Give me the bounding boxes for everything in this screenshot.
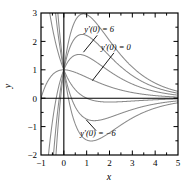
y-tick-label: 2 xyxy=(33,37,38,47)
annotation-middle: y'(0) = 0 xyxy=(100,42,131,52)
y-tick-label: 3 xyxy=(33,8,38,18)
x-tick-label: 0 xyxy=(62,158,67,168)
solution-curves-plot: −1012345 3210−1−2 y'(0) = 6y'(0) = 0y'(0… xyxy=(0,0,189,186)
x-tick-label: 4 xyxy=(153,158,158,168)
x-tick-label: −1 xyxy=(36,158,46,168)
y-tick-label: −2 xyxy=(27,150,37,160)
x-axis-title: x xyxy=(106,171,112,182)
y-tick-label: 0 xyxy=(33,94,38,104)
annotation-lower: y'(0) = −6 xyxy=(79,128,116,138)
x-tick-label: 5 xyxy=(176,158,181,168)
x-tick-label: 3 xyxy=(130,158,135,168)
figure-container: −1012345 3210−1−2 y'(0) = 6y'(0) = 0y'(0… xyxy=(0,0,189,186)
x-tick-label: 1 xyxy=(84,158,89,168)
y-axis-title: y xyxy=(2,83,13,89)
x-tick-label: 2 xyxy=(107,158,112,168)
y-tick-label: 1 xyxy=(33,65,38,75)
y-tick-label: −1 xyxy=(27,122,37,132)
annotation-upper: y'(0) = 6 xyxy=(83,24,114,34)
